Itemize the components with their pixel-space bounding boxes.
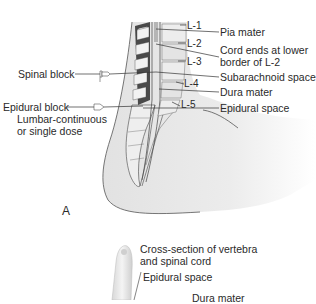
label-pia-mater: Pia mater (220, 26, 265, 38)
panel-label-a: A (62, 205, 70, 217)
label-subarachnoid-space: Subarachnoid space (220, 71, 316, 83)
label-cord-ends-1: Cord ends at lower (220, 44, 308, 56)
label-cross-section-2: and spinal cord (140, 255, 211, 267)
label-b-dura-mater: Dura mater (192, 292, 245, 304)
level-l1: L-1 (187, 20, 201, 31)
label-epidural-block: Epidural block (3, 101, 69, 113)
label-cord-ends-2: border of L-2 (220, 56, 280, 68)
spinous-processes (133, 22, 150, 105)
label-epidural-space: Epidural space (220, 102, 289, 114)
label-dura-mater: Dura mater (220, 86, 273, 98)
cross-section-vertebra (112, 246, 141, 300)
level-l4: L-4 (184, 78, 198, 89)
label-single-dose: or single dose (17, 125, 82, 137)
label-spinal-block: Spinal block (18, 68, 75, 80)
label-cross-section-1: Cross-section of vertebra (140, 243, 257, 255)
level-l3: L-3 (187, 56, 201, 67)
label-lumbar-continuous: Lumbar-continuous (17, 113, 107, 125)
level-l2: L-2 (187, 38, 201, 49)
label-b-epidural-space: Epidural space (143, 271, 212, 283)
level-l5: L-5 (181, 99, 195, 110)
